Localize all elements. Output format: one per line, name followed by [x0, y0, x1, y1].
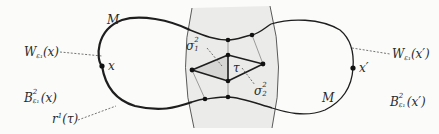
node-diamond-right — [261, 62, 266, 67]
label-r-tau: r1(τ) — [52, 113, 78, 125]
label-B-right: B2ε₁(x′) — [390, 96, 426, 108]
label-x: x — [108, 60, 115, 72]
label-B-left: B2ε₁(x) — [24, 92, 57, 104]
label-M-left: M — [107, 14, 119, 26]
node-diamond-bottom — [226, 79, 231, 84]
label-x-prime: x′ — [359, 62, 369, 74]
curve-M-right-lobe — [271, 20, 353, 114]
node-diamond-left — [190, 68, 195, 73]
label-tau: τ — [233, 62, 240, 74]
node-neck-bottom-left — [203, 97, 208, 102]
node-x — [99, 63, 104, 68]
label-W-right: Wε₁(x′) — [392, 48, 430, 62]
node-neck-top-right — [250, 33, 255, 38]
node-x-prime — [350, 65, 355, 70]
label-W-left: Wε₁(x) — [24, 46, 59, 60]
diagram-canvas: M M x x′ Wε₁(x) Wε₁(x′) B2ε₁(x) B2ε₁(x′)… — [0, 0, 439, 134]
label-sigma2: σ22 — [254, 85, 270, 97]
node-diamond-top — [226, 53, 231, 58]
label-sigma1: σ21 — [186, 40, 202, 52]
label-M-right: M — [322, 92, 334, 104]
node-neck-bottom — [226, 95, 231, 100]
node-neck-top — [226, 38, 231, 43]
